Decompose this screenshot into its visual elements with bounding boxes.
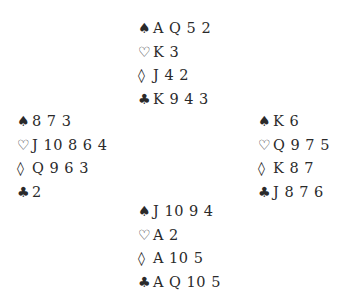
spade-icon: ♠ [138,17,153,41]
west-spades-cards: 8 7 3 [32,113,71,129]
south-hand: ♠J 10 9 4 ♡A 2 ◊A 10 5 ♣A Q 10 5 [138,200,221,294]
east-hearts-cards: Q 9 7 5 [273,137,330,153]
north-diamonds: ◊J 4 2 [138,64,211,88]
spade-icon: ♠ [258,110,273,134]
south-hearts-cards: A 2 [153,227,179,243]
north-hearts-cards: K 3 [153,44,179,60]
spade-icon: ♠ [138,200,153,224]
east-clubs-cards: J 8 7 6 [273,184,324,200]
east-diamonds-cards: K 8 7 [273,160,314,176]
heart-icon: ♡ [17,134,32,158]
club-icon: ♣ [138,88,153,112]
south-clubs-cards: A Q 10 5 [153,274,221,290]
north-clubs: ♣K 9 4 3 [138,88,211,112]
south-clubs: ♣A Q 10 5 [138,271,221,295]
north-spades: ♠A Q 5 2 [138,17,211,41]
west-hearts: ♡J 10 8 6 4 [17,134,107,158]
west-diamonds-cards: Q 9 6 3 [32,160,89,176]
diamond-icon: ◊ [17,157,32,181]
heart-icon: ♡ [138,41,153,65]
west-hearts-cards: J 10 8 6 4 [32,137,107,153]
south-diamonds-cards: A 10 5 [153,250,203,266]
east-diamonds: ◊K 8 7 [258,157,330,181]
north-spades-cards: A Q 5 2 [153,20,211,36]
south-diamonds: ◊A 10 5 [138,247,221,271]
diamond-icon: ◊ [258,157,273,181]
west-diamonds: ◊Q 9 6 3 [17,157,107,181]
south-spades: ♠J 10 9 4 [138,200,221,224]
north-clubs-cards: K 9 4 3 [153,91,209,107]
east-hearts: ♡Q 9 7 5 [258,134,330,158]
south-spades-cards: J 10 9 4 [153,203,214,219]
west-clubs-cards: 2 [32,184,42,200]
south-hearts: ♡A 2 [138,224,221,248]
north-hearts: ♡K 3 [138,41,211,65]
east-spades-cards: K 6 [273,113,299,129]
north-hand: ♠A Q 5 2 ♡K 3 ◊J 4 2 ♣K 9 4 3 [138,17,211,111]
north-diamonds-cards: J 4 2 [153,67,189,83]
west-clubs: ♣2 [17,181,107,205]
east-clubs: ♣J 8 7 6 [258,181,330,205]
diamond-icon: ◊ [138,247,153,271]
club-icon: ♣ [17,181,32,205]
heart-icon: ♡ [138,224,153,248]
east-spades: ♠K 6 [258,110,330,134]
diamond-icon: ◊ [138,64,153,88]
east-hand: ♠K 6 ♡Q 9 7 5 ◊K 8 7 ♣J 8 7 6 [258,110,330,204]
west-hand: ♠8 7 3 ♡J 10 8 6 4 ◊Q 9 6 3 ♣2 [17,110,107,204]
heart-icon: ♡ [258,134,273,158]
spade-icon: ♠ [17,110,32,134]
club-icon: ♣ [138,271,153,295]
west-spades: ♠8 7 3 [17,110,107,134]
club-icon: ♣ [258,181,273,205]
